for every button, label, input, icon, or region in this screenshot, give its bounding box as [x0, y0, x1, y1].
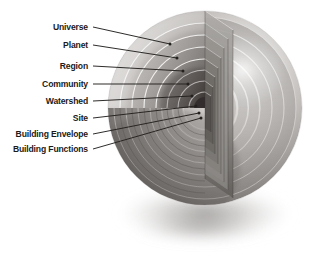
- callout-label-universe: Universe: [0, 23, 88, 32]
- callout-label-building-functions: Building Functions: [0, 145, 88, 154]
- leader-dot-building-envelope: [198, 112, 201, 115]
- leader-dot-building-functions: [200, 117, 203, 120]
- leader-dot-watershed: [191, 95, 194, 98]
- callout-label-community: Community: [0, 80, 88, 89]
- leader-dot-universe: [169, 43, 172, 46]
- callout-label-planet: Planet: [0, 41, 88, 50]
- leader-dot-site: [195, 105, 198, 108]
- leader-dot-planet: [176, 57, 179, 60]
- callout-label-building-envelope: Building Envelope: [0, 130, 88, 139]
- sphere-diagram-figure: UniversePlanetRegionCommunityWatershedSi…: [0, 0, 331, 265]
- callout-label-site: Site: [0, 114, 88, 123]
- callout-label-watershed: Watershed: [0, 97, 88, 106]
- cut-plane-faces: [205, 11, 233, 198]
- callout-label-region: Region: [0, 62, 88, 71]
- leader-dot-community: [187, 83, 190, 86]
- leader-dot-region: [182, 70, 185, 73]
